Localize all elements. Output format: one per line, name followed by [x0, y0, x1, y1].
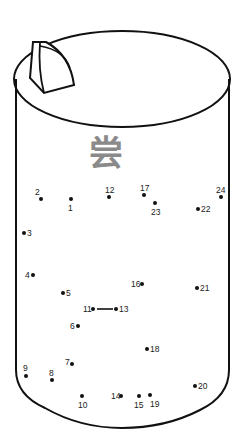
dot-label: 14 [111, 392, 120, 401]
dot-6[interactable] [76, 324, 80, 328]
dot-label: 5 [66, 289, 71, 298]
dot-23[interactable] [153, 201, 157, 205]
dot-label: 7 [65, 358, 70, 367]
dot-13[interactable] [114, 307, 118, 311]
dot-label: 3 [27, 229, 32, 238]
dot-label: 10 [78, 401, 87, 410]
dot-16[interactable] [140, 282, 144, 286]
dot-20[interactable] [193, 384, 197, 388]
dot-10[interactable] [80, 394, 84, 398]
dot-label: 19 [150, 400, 159, 409]
dot-label: 15 [134, 401, 143, 410]
dot-label: 20 [198, 382, 207, 391]
dot-label: 11 [83, 305, 92, 314]
dot-1[interactable] [69, 197, 73, 201]
dot-label: 4 [25, 271, 30, 280]
dot-label: 1 [68, 204, 73, 213]
dot-label: 18 [150, 345, 159, 354]
dot-label: 2 [35, 188, 40, 197]
worksheet-canvas: 尝 12345678910111213141516171819202122232… [0, 0, 242, 448]
dot-8[interactable] [50, 378, 54, 382]
dot-label: 24 [216, 186, 225, 195]
dot-4[interactable] [31, 273, 35, 277]
dot-label: 16 [131, 280, 140, 289]
dot-15[interactable] [137, 394, 141, 398]
dot-label: 8 [49, 369, 54, 378]
dot-24[interactable] [219, 195, 223, 199]
dot-9[interactable] [24, 374, 28, 378]
dot-22[interactable] [196, 207, 200, 211]
dot-21[interactable] [195, 286, 199, 290]
chinese-character: 尝 [86, 133, 126, 173]
dot-label: 22 [201, 205, 210, 214]
cylinder-body [16, 79, 229, 428]
dot-label: 12 [105, 186, 114, 195]
dot-3[interactable] [22, 231, 26, 235]
dot-7[interactable] [70, 362, 74, 366]
dot-19[interactable] [148, 393, 152, 397]
dot-17[interactable] [142, 193, 146, 197]
dot-label: 21 [200, 284, 209, 293]
dot-label: 6 [70, 322, 75, 331]
dot-18[interactable] [145, 347, 149, 351]
dot-label: 23 [151, 208, 160, 217]
dot-5[interactable] [61, 291, 65, 295]
dot-12[interactable] [107, 195, 111, 199]
dot-label: 17 [140, 184, 149, 193]
dot-label: 13 [119, 305, 128, 314]
dot-label: 9 [23, 364, 28, 373]
dot-2[interactable] [39, 197, 43, 201]
